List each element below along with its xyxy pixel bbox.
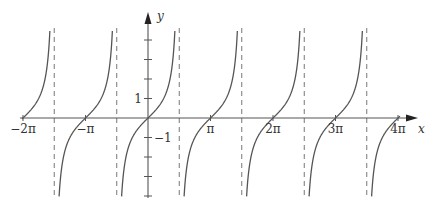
x-tick-label: −π xyxy=(77,122,95,136)
tangent-branch xyxy=(59,31,112,196)
x-axis-label: x xyxy=(418,122,425,136)
tangent-branch xyxy=(309,31,362,196)
x-tick-label: −2π xyxy=(10,122,36,136)
tangent-branch xyxy=(247,31,300,196)
x-tick-label: 4π xyxy=(390,122,406,136)
y-tick-label: 1 xyxy=(134,92,142,106)
y-tick-label: −1 xyxy=(154,131,172,145)
y-axis-label: y xyxy=(156,9,164,23)
x-tick-label: 3π xyxy=(328,122,344,136)
axes xyxy=(20,12,418,198)
tangent-branch xyxy=(184,31,237,196)
x-axis-arrow-icon xyxy=(406,115,418,122)
x-tick-label: π xyxy=(207,122,215,136)
tangent-curves xyxy=(22,31,400,196)
y-axis-arrow-icon xyxy=(145,12,152,24)
x-tick-label: 2π xyxy=(265,122,281,136)
tangent-branch xyxy=(22,31,50,119)
vertical-asymptotes xyxy=(54,28,367,198)
tangent-graph: −2π−ππ2π3π4π1−1 y x xyxy=(0,0,429,205)
